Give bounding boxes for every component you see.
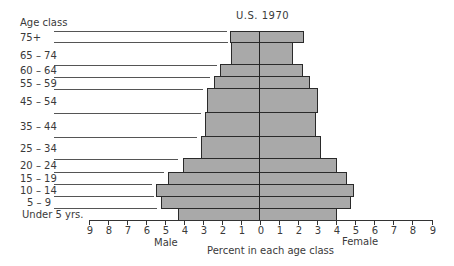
tick-label: 8 [103, 226, 115, 236]
tick-label: 5 [160, 226, 172, 236]
age-label-55-59: 55 – 59 [20, 79, 57, 89]
female-label: Female [342, 237, 378, 247]
leader-line [54, 31, 227, 32]
leader-line [54, 172, 164, 173]
age-label-under-5: Under 5 yrs. [22, 210, 83, 220]
x-axis-title: Percent in each age class [207, 246, 334, 256]
tick-label: 9 [427, 226, 439, 236]
age-label-15-19: 15 – 19 [20, 174, 57, 184]
leader-line [54, 89, 203, 90]
tick-label: 3 [312, 226, 324, 236]
leader-line [54, 137, 197, 138]
leader-line [54, 196, 154, 197]
age-label-35-44: 35 – 44 [20, 122, 57, 132]
tick-label: 6 [369, 226, 381, 236]
tick-label: 1 [236, 226, 248, 236]
tick-label: 6 [141, 226, 153, 236]
tick-label: 1 [274, 226, 286, 236]
center-line [259, 31, 260, 221]
tick-label: 4 [331, 226, 343, 236]
leader-line [54, 42, 228, 43]
age-label-10-14: 10 – 14 [20, 186, 57, 196]
y-axis-title: Age class [20, 18, 67, 28]
age-label-60-64: 60 – 64 [20, 66, 57, 76]
age-label-25-34: 25 – 34 [20, 144, 57, 154]
leader-line [54, 159, 178, 160]
chart-title: U.S. 1970 [236, 10, 289, 21]
tick-label: 9 [84, 226, 96, 236]
bar-20-24 [183, 158, 337, 173]
x-axis [89, 220, 433, 221]
age-label-20-24: 20 – 24 [20, 161, 57, 171]
leader-line [54, 65, 217, 66]
male-label: Male [154, 238, 178, 248]
age-label-65-74: 65 – 74 [20, 51, 57, 61]
tick-label: 0 [255, 226, 267, 236]
tick-label: 7 [122, 226, 134, 236]
age-label-75plus: 75+ [20, 33, 41, 43]
tick-label: 4 [179, 226, 191, 236]
leader-line [54, 208, 157, 209]
tick-label: 3 [198, 226, 210, 236]
tick-label: 8 [407, 226, 419, 236]
bar-65-74 [231, 42, 293, 65]
tick-label: 2 [217, 226, 229, 236]
leader-line [54, 184, 152, 185]
leader-line [54, 77, 210, 78]
bar-35-44 [205, 112, 316, 137]
tick-label: 7 [388, 226, 400, 236]
age-label-5-9: 5 – 9 [27, 198, 51, 208]
leader-line [54, 113, 201, 114]
bar-25-34 [201, 136, 321, 159]
age-label-45-54: 45 – 54 [20, 97, 57, 107]
tick-label: 5 [350, 226, 362, 236]
tick-label: 2 [293, 226, 305, 236]
bar-45-54 [207, 88, 318, 113]
